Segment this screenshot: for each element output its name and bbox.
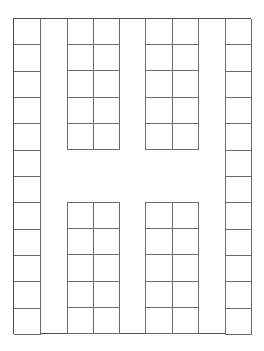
grid-cell [173, 229, 200, 255]
grid-cell [146, 229, 173, 255]
grid-cell [14, 256, 41, 282]
grid-cell [14, 177, 41, 203]
grid-cell [146, 308, 173, 334]
grid-cell [173, 45, 200, 71]
lower-left-block [67, 202, 120, 334]
grid-cell [173, 255, 200, 281]
grid-cell [68, 229, 94, 255]
floor-plan-frame [13, 18, 251, 334]
grid-cell [226, 309, 252, 335]
grid-cell [173, 203, 200, 229]
grid-cell [146, 45, 173, 71]
grid-cell [173, 124, 200, 150]
grid-cell [173, 19, 200, 45]
grid-cell [146, 282, 173, 308]
grid-cell [68, 255, 94, 281]
grid-cell [94, 71, 120, 97]
grid-cell [173, 98, 200, 124]
grid-cell [14, 151, 41, 177]
grid-cell [94, 45, 120, 71]
grid-cell [68, 71, 94, 97]
grid-cell [146, 71, 173, 97]
grid-cell [146, 98, 173, 124]
grid-cell [226, 124, 252, 150]
grid-cell [14, 124, 41, 150]
grid-cell [173, 71, 200, 97]
grid-cell [14, 203, 41, 229]
grid-cell [226, 177, 252, 203]
grid-cell [173, 308, 200, 334]
left-column [14, 19, 41, 335]
grid-cell [226, 230, 252, 256]
grid-cell [94, 255, 120, 281]
grid-cell [68, 203, 94, 229]
grid-cell [226, 282, 252, 308]
grid-cell [146, 255, 173, 281]
grid-cell [226, 72, 252, 98]
grid-cell [226, 203, 252, 229]
grid-cell [94, 98, 120, 124]
grid-cell [68, 19, 94, 45]
grid-cell [226, 19, 252, 45]
grid-cell [94, 229, 120, 255]
grid-cell [173, 282, 200, 308]
grid-cell [14, 309, 41, 335]
right-column [225, 19, 252, 335]
grid-cell [68, 308, 94, 334]
grid-cell [68, 45, 94, 71]
lower-right-block [145, 202, 199, 334]
grid-cell [14, 72, 41, 98]
grid-cell [68, 98, 94, 124]
grid-cell [94, 282, 120, 308]
grid-cell [14, 282, 41, 308]
grid-cell [14, 230, 41, 256]
grid-cell [226, 45, 252, 71]
upper-left-block [67, 19, 120, 150]
grid-cell [226, 256, 252, 282]
grid-cell [68, 282, 94, 308]
grid-cell [14, 19, 41, 45]
grid-cell [94, 124, 120, 150]
upper-right-block [145, 19, 199, 150]
grid-cell [68, 124, 94, 150]
grid-cell [94, 19, 120, 45]
grid-cell [14, 98, 41, 124]
grid-cell [226, 98, 252, 124]
grid-cell [14, 45, 41, 71]
grid-cell [146, 19, 173, 45]
grid-cell [94, 308, 120, 334]
grid-cell [94, 203, 120, 229]
grid-cell [146, 203, 173, 229]
grid-cell [226, 151, 252, 177]
grid-cell [146, 124, 173, 150]
